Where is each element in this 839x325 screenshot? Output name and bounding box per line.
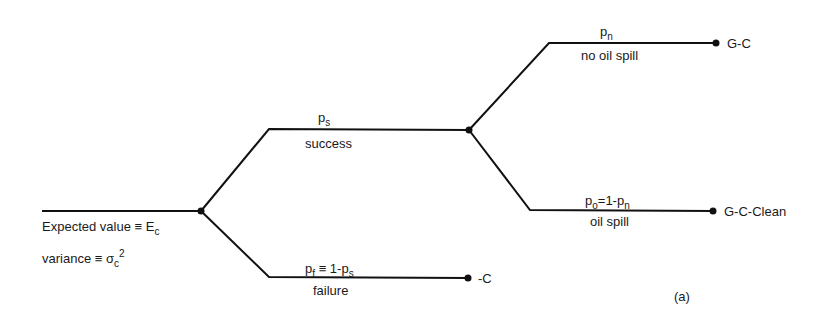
no-oil-spill-probability-label: pn (600, 24, 613, 42)
decision-tree-diagram: Expected value ≡ Ec variance ≡ σc2 ps su… (0, 0, 839, 325)
failure-probability-label: pf ≡ 1-ps (305, 261, 354, 279)
failure-label: failure (313, 283, 348, 298)
success-probability-label: ps (318, 110, 330, 128)
oil-spill-outcome: G-C-Clean (724, 204, 786, 219)
oil-spill-label: oil spill (590, 214, 629, 229)
figure-label: (a) (674, 289, 690, 304)
oil-spill-probability-label: po=1-pn (585, 193, 630, 211)
no-oil-spill-label: no oil spill (581, 48, 638, 63)
success-label: success (305, 136, 352, 151)
oil-spill-end-node (710, 208, 717, 215)
no-oil-spill-outcome: G-C (727, 36, 751, 51)
expected-value-label: Expected value ≡ Ec (42, 219, 159, 237)
variance-label: variance ≡ σc2 (42, 248, 125, 269)
failure-end-node (465, 275, 472, 282)
no-oil-spill-end-node (713, 40, 720, 47)
failure-outcome: -C (478, 271, 492, 286)
